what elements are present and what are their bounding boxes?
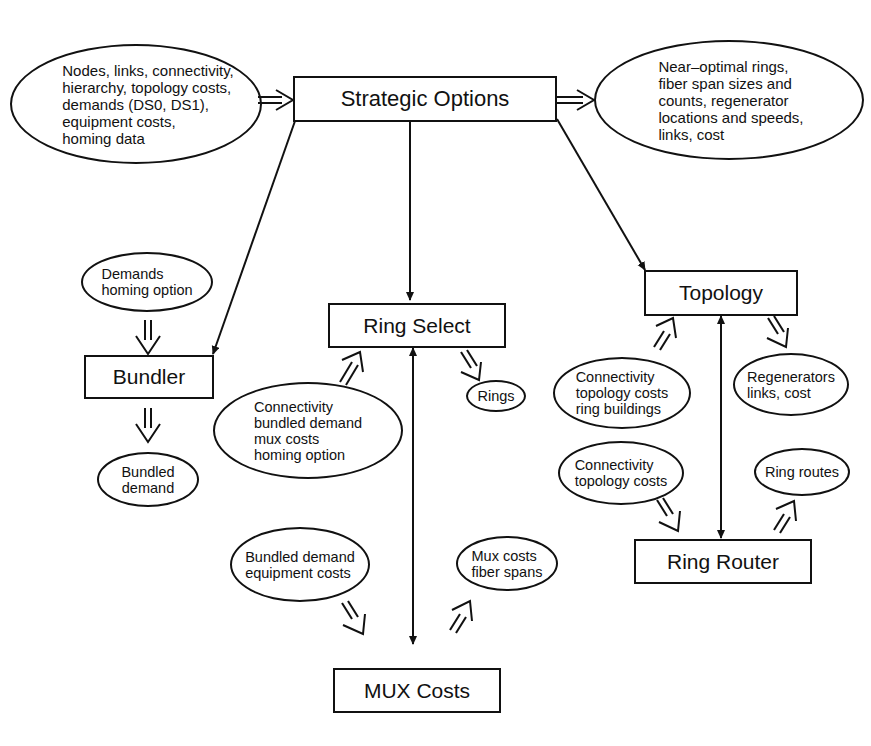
bundler-label: Bundler: [113, 365, 185, 389]
ring-router-box: Ring Router: [634, 539, 812, 584]
bundler-input-ellipse: Demands homing option: [81, 252, 213, 312]
dataflow-rsin-to-ringselect: [340, 352, 363, 385]
topology-output-ellipse: Regenerators links, cost: [733, 353, 849, 416]
ring-routes-ellipse: Ring routes: [754, 448, 850, 496]
mux-costs-label: MUX Costs: [364, 679, 470, 703]
bundler-input-text: Demands homing option: [101, 266, 192, 298]
topology-input-ellipse: Connectivity topology costs ring buildin…: [553, 357, 691, 429]
ring-router-label: Ring Router: [667, 550, 779, 574]
dataflow-mux-to-muxout: [450, 601, 472, 633]
dataflow-topology-to-topoout: [767, 316, 788, 347]
ring-router-input-ellipse: Connectivity topology costs: [558, 441, 684, 505]
dataflow-bundler-to-bundlerout: [136, 408, 160, 442]
ring-select-input-text: Connectivity bundled demand mux costs ho…: [254, 399, 362, 463]
dataflow-router-to-routerout: [774, 501, 796, 533]
bundler-box: Bundler: [84, 355, 214, 399]
rings-ellipse: Rings: [466, 380, 526, 412]
inputs-text: Nodes, links, connectivity, hierarchy, t…: [62, 62, 233, 147]
strategic-options-label: Strategic Options: [341, 86, 510, 112]
ring-routes-text: Ring routes: [765, 464, 839, 480]
topology-input-text: Connectivity topology costs ring buildin…: [576, 369, 669, 417]
dataflow-topoin-to-topology: [654, 318, 676, 350]
rings-text: Rings: [477, 388, 514, 404]
mux-output-text: Mux costs fiber spans: [472, 548, 543, 580]
arrow-strategic-to-bundler: [213, 121, 295, 354]
mux-output-ellipse: Mux costs fiber spans: [456, 536, 558, 591]
dataflow-muxin-to-mux: [342, 601, 365, 634]
ring-select-input-ellipse: Connectivity bundled demand mux costs ho…: [213, 382, 403, 479]
dataflow-bundlerin-to-bundler: [136, 320, 160, 354]
inputs-ellipse: Nodes, links, connectivity, hierarchy, t…: [10, 44, 262, 164]
mux-input-ellipse: Bundled demand equipment costs: [230, 527, 370, 602]
mux-input-text: Bundled demand equipment costs: [245, 549, 355, 581]
topology-label: Topology: [679, 281, 763, 305]
bundler-output-text: Bundled demand: [121, 464, 174, 496]
ring-select-label: Ring Select: [363, 314, 470, 338]
strategic-options-box: Strategic Options: [293, 76, 557, 122]
dataflow-inputs-to-strategic: [258, 90, 293, 110]
mux-costs-box: MUX Costs: [333, 668, 501, 713]
topology-box: Topology: [644, 270, 798, 316]
dataflow-strategic-to-outputs: [557, 90, 594, 110]
ring-select-box: Ring Select: [328, 303, 506, 348]
outputs-text: Near–optimal rings, fiber span sizes and…: [658, 58, 803, 143]
ring-router-input-text: Connectivity topology costs: [575, 457, 668, 489]
dataflow-routerin-to-router: [657, 498, 680, 531]
bundler-output-ellipse: Bundled demand: [97, 452, 199, 507]
topology-output-text: Regenerators links, cost: [747, 369, 835, 401]
dataflow-ringselect-to-rings: [461, 350, 481, 380]
outputs-ellipse: Near–optimal rings, fiber span sizes and…: [594, 40, 864, 160]
